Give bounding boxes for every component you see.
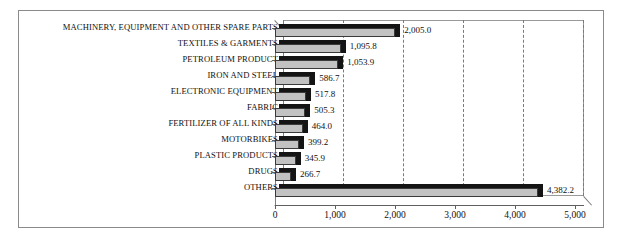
value-axis-tick [455,205,456,209]
bar-value-label: 586.7 [319,73,339,83]
bar: 464.0 [275,120,303,129]
category-label: FABRIC [0,102,278,112]
bar-side-face [538,184,543,197]
plot-bottom-right-skew [584,196,594,206]
value-axis-tick-label: 5,000 [545,210,605,220]
bar-side-face [303,120,308,133]
bar: 2,005.0 [275,24,395,33]
value-axis-tick [275,205,276,209]
bar-value-label: 1,053.9 [347,57,374,67]
bar-front-face [275,172,291,181]
bar-value-label: 2,005.0 [404,25,431,35]
bar-value-label: 517.8 [315,89,335,99]
bar-front-face [275,60,338,69]
category-label: DRUGS [0,166,278,176]
bar-value-label: 505.3 [314,105,334,115]
bar: 517.8 [275,88,306,97]
category-label: IRON AND STEEL [0,70,278,80]
value-axis-tick [395,205,396,209]
bar: 505.3 [275,104,305,113]
chart-screenshot: 01,0002,0003,0004,0005,000 MACHINERY, EQ… [0,0,622,239]
value-axis-tick-label: 4,000 [485,210,545,220]
plot-area: 01,0002,0003,0004,0005,000 MACHINERY, EQ… [0,0,622,239]
bar-side-face [338,56,343,69]
bar-side-face [305,104,310,117]
bar-value-label: 345.9 [305,153,325,163]
value-axis-line [275,205,584,206]
bar-side-face [310,72,315,85]
category-label: OTHERS [0,182,278,192]
bar: 1,053.9 [275,56,338,65]
bar-front-face [275,28,395,37]
bar: 586.7 [275,72,310,81]
bar-front-face [275,92,306,101]
category-label: TEXTILES & GARMENTS [0,38,278,48]
bar-front-face [275,44,341,53]
bar: 1,095.8 [275,40,341,49]
category-label: ELECTRONIC EQUIPMENT [0,86,278,96]
bar-value-label: 266.7 [300,169,320,179]
value-axis-tick [335,205,336,209]
category-label: MOTORBIKES [0,134,278,144]
bar: 399.2 [275,136,299,145]
chart-frame: 01,0002,0003,0004,0005,000 MACHINERY, EQ… [18,10,604,228]
category-label: MACHINERY, EQUIPMENT AND OTHER SPARE PAR… [0,22,278,32]
bar-side-face [395,24,400,37]
value-axis-tick [575,205,576,209]
bar-side-face [291,168,296,181]
bar-side-face [341,40,346,53]
category-label: PLASTIC PRODUCTS [0,150,278,160]
plot-floor [275,196,584,205]
bar-front-face [275,156,296,165]
bar-side-face [306,88,311,101]
bar: 4,382.2 [275,184,538,193]
gridline [403,20,404,196]
category-label: PETROLEUM PRODUCT [0,54,278,64]
bar-front-face [275,188,538,197]
bar-front-face [275,108,305,117]
value-axis-tick [515,205,516,209]
value-axis-tick-label: 2,000 [365,210,425,220]
bar-value-label: 4,382.2 [547,185,574,195]
bar-front-face [275,140,299,149]
bar-front-face [275,124,303,133]
gridline [523,20,524,196]
bar-side-face [299,136,304,149]
value-axis-tick-label: 0 [245,210,305,220]
gridline [463,20,464,196]
value-axis-tick-label: 3,000 [425,210,485,220]
category-label: FERTILIZER OF ALL KINDS [0,118,278,128]
gridline [583,20,584,196]
bar-value-label: 399.2 [308,137,328,147]
bar: 266.7 [275,168,291,177]
bar-value-label: 464.0 [312,121,332,131]
bar: 345.9 [275,152,296,161]
bar-side-face [296,152,301,165]
bar-front-face [275,76,310,85]
bar-value-label: 1,095.8 [350,41,377,51]
value-axis-tick-label: 1,000 [305,210,365,220]
